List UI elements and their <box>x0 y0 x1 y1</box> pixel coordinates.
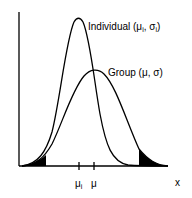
individual-curve <box>22 18 168 166</box>
individual-label: Individual (μi, σi) <box>88 21 160 33</box>
group-label: Group (μ, σ) <box>108 67 163 78</box>
right-tail-shading <box>139 149 166 166</box>
distribution-diagram: Individual (μi, σi) Group (μ, σ) μi μ x <box>0 0 192 198</box>
tick-label-mu-i: μi <box>75 178 83 190</box>
x-axis-label: x <box>175 177 180 188</box>
tick-label-mu: μ <box>91 178 97 189</box>
